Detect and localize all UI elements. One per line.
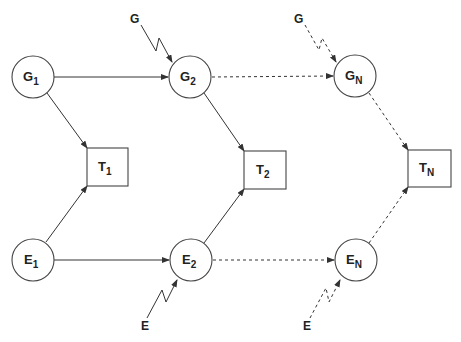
node-e2: E2 [170, 239, 212, 281]
ext-label-g-top-left: G [130, 12, 139, 26]
node-t2: T2 [244, 151, 286, 189]
flow-diagram: G G E E G1 G2 GN T1 T2 TN E1 E2 EN [0, 0, 461, 342]
edge-g1-t1 [47, 93, 87, 148]
node-gn-sub: N [355, 75, 362, 86]
edge-g2-t2 [204, 93, 244, 151]
node-gn: GN [334, 55, 376, 97]
node-en-base: E [346, 252, 355, 267]
ext-label-e-bottom-left: E [141, 319, 149, 333]
node-en: EN [335, 239, 377, 281]
zigzag-g-to-g2 [141, 25, 172, 62]
edge-e2-t2 [204, 189, 244, 243]
node-e1-base: E [24, 252, 33, 267]
node-g2-base: G [180, 69, 190, 84]
node-t2-base: T [256, 162, 264, 177]
ext-label-g-top-right: G [294, 12, 303, 26]
node-g2-sub: 2 [190, 76, 196, 87]
node-g2: G2 [169, 56, 211, 98]
node-t1: T1 [87, 148, 128, 186]
edge-e1-t1 [46, 186, 87, 242]
node-g1-sub: 1 [33, 76, 39, 87]
edge-g2-gn [212, 76, 333, 77]
node-en-sub: N [355, 259, 362, 270]
node-e2-sub: 2 [191, 259, 197, 270]
node-e2-base: E [182, 252, 191, 267]
ext-label-e-bottom-right: E [303, 319, 311, 333]
node-tn-sub: N [427, 167, 434, 178]
node-gn-base: G [345, 68, 355, 83]
node-g1: G1 [12, 56, 54, 98]
edge-gn-tn [369, 93, 408, 150]
node-t1-sub: 1 [106, 166, 112, 177]
edge-en-tn [369, 187, 408, 243]
node-t1-base: T [98, 159, 106, 174]
zigzag-e-to-e2 [147, 280, 177, 318]
node-g1-base: G [23, 69, 33, 84]
zigzag-e-to-en [310, 280, 340, 318]
zigzag-g-to-gn [305, 25, 336, 62]
node-e1-sub: 1 [33, 259, 39, 270]
node-tn-base: T [419, 160, 427, 175]
node-tn: TN [408, 150, 451, 187]
node-e1: E1 [12, 239, 54, 281]
node-t2-sub: 2 [264, 169, 270, 180]
